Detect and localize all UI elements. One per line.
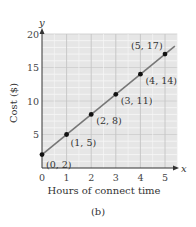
data-point (89, 112, 94, 117)
data-point-label: (0, 2) (46, 159, 72, 170)
x-tick-label: 2 (88, 172, 94, 183)
data-point (138, 72, 143, 77)
x-tick-label: 5 (162, 172, 168, 183)
grid (42, 34, 177, 168)
x-tick-label: 1 (64, 172, 70, 183)
data-point-label: (1, 5) (71, 137, 97, 148)
data-point (64, 132, 69, 137)
cost-vs-hours-chart: 0123455101520 (0, 2)(1, 5)(2, 8)(3, 11)(… (0, 0, 196, 227)
y-axis-arrow-icon (40, 28, 45, 34)
data-point-label: (4, 14) (145, 75, 177, 86)
figure-caption: (b) (91, 206, 105, 217)
x-axis-label: Hours of connect time (47, 185, 160, 196)
data-point (40, 152, 45, 157)
y-tick-label: 10 (27, 96, 39, 107)
y-tick-label: 15 (27, 62, 39, 73)
y-tick-label: 20 (27, 29, 39, 40)
y-axis-letter: y (38, 17, 45, 28)
x-tick-label: 0 (39, 172, 45, 183)
x-tick-label: 4 (137, 172, 143, 183)
y-axis-label: Cost ($) (8, 83, 19, 123)
data-point (113, 92, 118, 97)
data-point (163, 52, 168, 57)
data-point-label: (5, 17) (131, 40, 163, 51)
y-tick-label: 5 (33, 129, 39, 140)
data-point-label: (3, 11) (121, 95, 153, 106)
x-tick-label: 3 (113, 172, 119, 183)
x-axis-letter: x (181, 163, 187, 174)
data-point-label: (2, 8) (96, 115, 122, 126)
